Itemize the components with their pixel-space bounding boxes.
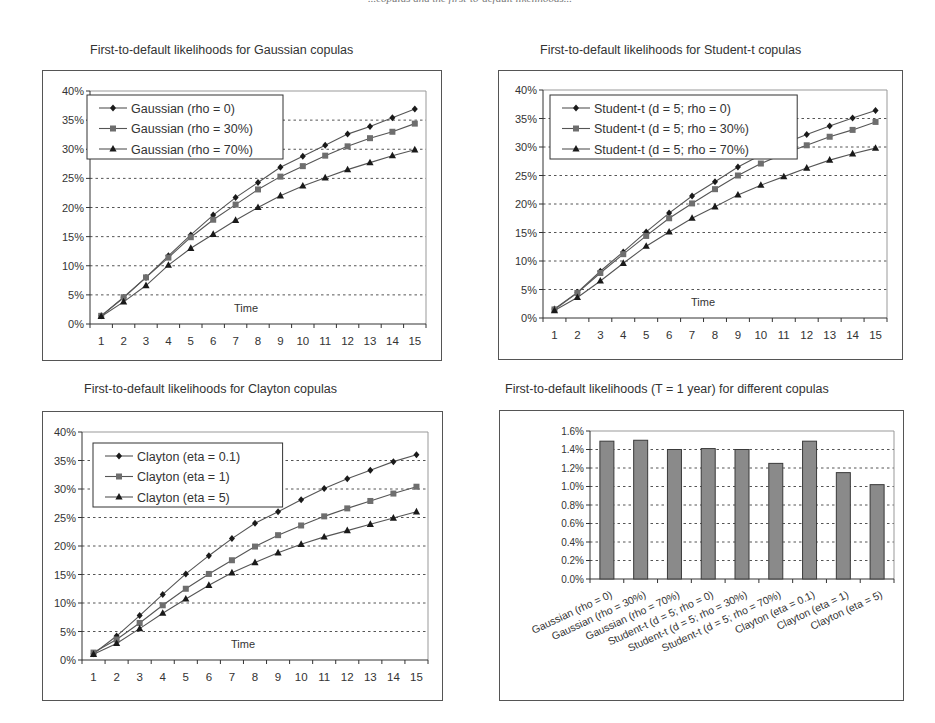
bar <box>803 441 817 579</box>
bar <box>769 463 783 579</box>
bar <box>735 450 749 580</box>
y-tick-label: 0.2% <box>561 555 584 566</box>
y-tick-label: 1.6% <box>561 426 584 437</box>
y-tick-label: 0.0% <box>561 574 584 585</box>
y-tick-label: 0.6% <box>561 518 584 529</box>
y-tick-label: 1.4% <box>561 444 584 455</box>
bar <box>870 485 884 579</box>
bar <box>634 440 648 579</box>
y-tick-label: 1.2% <box>561 463 584 474</box>
bar <box>600 441 614 579</box>
bar <box>701 449 715 579</box>
y-tick-label: 1.0% <box>561 481 584 492</box>
bar <box>667 450 681 580</box>
one-year-bar-chart: 0.0%0.2%0.4%0.6%0.8%1.0%1.2%1.4%1.6%Gaus… <box>0 0 935 723</box>
bar <box>836 473 850 579</box>
y-tick-label: 0.4% <box>561 537 584 548</box>
y-tick-label: 0.8% <box>561 500 584 511</box>
